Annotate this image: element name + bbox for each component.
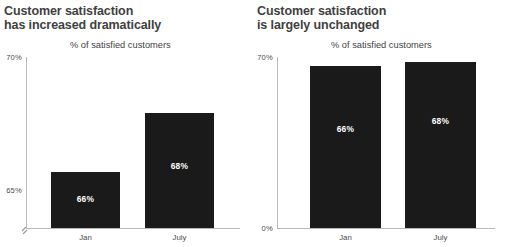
bar-jan-left: 66% Jan — [51, 172, 120, 228]
bar-july-right: 68% July — [405, 62, 476, 228]
chart-panel-truncated-axis: Customer satisfaction has increased dram… — [0, 0, 253, 247]
bar-july-left: 68% July — [145, 113, 214, 228]
bar-value-jan-left: 66% — [51, 194, 120, 204]
x-tick-label-july-right: July — [405, 233, 476, 242]
y-axis-line-left — [26, 57, 27, 228]
y-axis-line-right — [277, 57, 278, 228]
chart-subtitle-left: % of satisfied customers — [70, 40, 171, 50]
chart-title-right: Customer satisfaction is largely unchang… — [257, 4, 386, 32]
x-tick-label-jan-left: Jan — [51, 233, 120, 242]
x-tick-label-july-left: July — [145, 233, 214, 242]
chart-subtitle-right: % of satisfied customers — [331, 40, 432, 50]
plot-area-left: 70% 65% 66% Jan 68% July — [26, 57, 240, 229]
chart-title-left: Customer satisfaction has increased dram… — [4, 4, 161, 32]
axis-break-icon — [21, 221, 32, 233]
bar-value-july-right: 68% — [405, 116, 476, 126]
bar-chart-comparison-figure: Customer satisfaction has increased dram… — [0, 0, 507, 247]
bar-jan-right: 66% Jan — [310, 66, 381, 228]
x-axis-line-right — [277, 228, 495, 229]
y-tick-label-top-left: 70% — [6, 53, 22, 62]
bar-value-jan-right: 66% — [310, 124, 381, 134]
plot-area-right: 70% 0% 66% Jan 68% July — [277, 57, 495, 229]
y-tick-label-bottom-left: 65% — [6, 186, 22, 195]
chart-panel-full-axis: Customer satisfaction is largely unchang… — [253, 0, 507, 247]
bar-value-july-left: 68% — [145, 161, 214, 171]
y-tick-label-bottom-right: 0% — [262, 224, 273, 233]
x-axis-line-left — [26, 228, 240, 229]
y-tick-label-top-right: 70% — [257, 53, 273, 62]
x-tick-label-jan-right: Jan — [310, 233, 381, 242]
